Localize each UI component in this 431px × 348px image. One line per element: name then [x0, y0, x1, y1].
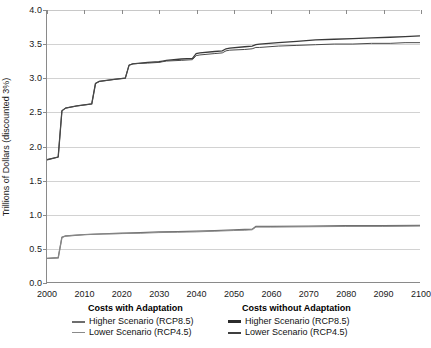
y-axis-tick-mark: [43, 249, 47, 250]
y-axis-tick-label: 1.0: [29, 210, 42, 220]
legend-item[interactable]: Higher Scenario (RCP8.5): [228, 316, 351, 327]
x-axis-tick-mark: [197, 10, 198, 14]
x-axis-tick-mark: [84, 10, 85, 14]
x-axis-tick-mark: [421, 10, 422, 14]
y-axis-tick-label: 3.0: [29, 73, 42, 83]
x-axis-tick-mark: [47, 10, 48, 14]
x-axis-tick-mark: [271, 10, 272, 14]
x-axis-tick-label: 2000: [37, 289, 57, 299]
y-axis-tick-label: 0.0: [29, 278, 42, 288]
y-axis-tick-mark: [43, 44, 47, 45]
y-axis-tick-label: 4.0: [29, 5, 42, 15]
y-axis-tick-mark: [43, 78, 47, 79]
legend-item-label: Higher Scenario (RCP8.5): [89, 316, 194, 327]
x-axis-tick-mark: [309, 10, 310, 14]
y-axis-tick-mark: [43, 215, 47, 216]
x-axis-tick-label: 2040: [187, 289, 207, 299]
y-axis-tick-label: 2.0: [29, 142, 42, 152]
y-axis-label: Trillions of Dollars (discounted 3%): [1, 77, 11, 216]
x-axis-tick-label: 2030: [149, 289, 169, 299]
chart-legend: Costs with AdaptationHigher Scenario (RC…: [0, 303, 431, 348]
series-line: [47, 43, 420, 160]
legend-column-title: Costs without Adaptation: [228, 303, 351, 313]
x-axis-tick-label: 2060: [261, 289, 281, 299]
legend-line-swatch: [228, 320, 241, 323]
legend-column: Costs without AdaptationHigher Scenario …: [228, 303, 351, 338]
legend-item-label: Lower Scenario (RCP4.5): [245, 327, 348, 338]
legend-item[interactable]: Higher Scenario (RCP8.5): [72, 316, 194, 327]
x-axis-tick-label: 2090: [374, 289, 394, 299]
x-axis-tick-label: 2100: [411, 289, 431, 299]
x-axis-tick-label: 2080: [336, 289, 356, 299]
y-axis-tick-label: 1.5: [29, 176, 42, 186]
plot-area: 0.00.51.01.52.02.53.03.54.0 200020102020…: [46, 10, 420, 283]
x-axis-tick-mark: [346, 10, 347, 14]
x-axis-tick-mark: [159, 10, 160, 14]
y-axis-tick-label: 3.5: [29, 39, 42, 49]
y-axis-tick-label: 0.5: [29, 244, 42, 254]
y-axis-tick-label: 2.5: [29, 107, 42, 117]
legend-item[interactable]: Lower Scenario (RCP4.5): [72, 327, 194, 338]
y-axis-tick-mark: [43, 181, 47, 182]
x-axis-tick-label: 2010: [74, 289, 94, 299]
y-axis-tick-mark: [43, 112, 47, 113]
x-axis-tick-label: 2070: [299, 289, 319, 299]
x-axis-tick-mark: [234, 10, 235, 14]
legend-column-title: Costs with Adaptation: [72, 303, 194, 313]
legend-item-label: Lower Scenario (RCP4.5): [89, 327, 192, 338]
legend-item-label: Higher Scenario (RCP8.5): [245, 316, 350, 327]
x-axis-tick-mark: [384, 10, 385, 14]
series-line: [47, 36, 420, 160]
series-layer: [47, 10, 420, 282]
y-axis-tick-mark: [43, 147, 47, 148]
legend-item[interactable]: Lower Scenario (RCP4.5): [228, 327, 351, 338]
series-line: [47, 226, 420, 258]
y-axis-tick-mark: [43, 283, 47, 284]
legend-line-swatch: [228, 332, 241, 334]
y-axis-label-container: Trillions of Dollars (discounted 3%): [8, 10, 22, 283]
x-axis-tick-mark: [122, 10, 123, 14]
legend-line-swatch: [72, 321, 85, 323]
legend-line-swatch: [72, 332, 85, 334]
x-axis-tick-label: 2050: [224, 289, 244, 299]
legend-column: Costs with AdaptationHigher Scenario (RC…: [72, 303, 194, 338]
chart-figure: Trillions of Dollars (discounted 3%) 0.0…: [0, 0, 431, 348]
x-axis-tick-label: 2020: [112, 289, 132, 299]
